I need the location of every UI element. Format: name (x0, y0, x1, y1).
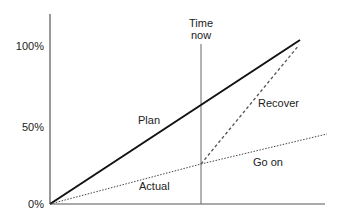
time-now-label-1: Time (189, 17, 213, 29)
plan-label: Plan (138, 114, 160, 126)
y-tick-0: 0% (28, 198, 44, 210)
chart-canvas: 100% 50% 0% Time now Plan Actual Go on R… (0, 0, 342, 219)
plan-line (50, 40, 300, 204)
recover-label: Recover (258, 97, 299, 109)
y-tick-100: 100% (16, 40, 44, 52)
actual-line (50, 164, 201, 204)
actual-label: Actual (139, 180, 170, 192)
time-now-label-2: now (191, 29, 211, 41)
y-tick-50: 50% (22, 121, 44, 133)
go-on-label: Go on (253, 156, 283, 168)
